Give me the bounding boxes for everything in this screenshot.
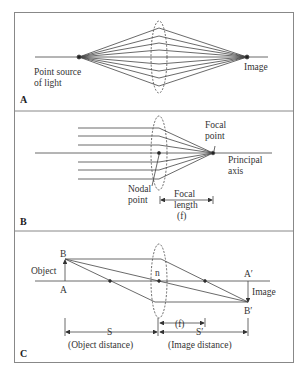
label-object-distance: (Object distance) xyxy=(68,340,133,351)
label-focal: Focal xyxy=(205,120,226,130)
panel-label-a: A xyxy=(20,94,28,105)
focal-point-dot xyxy=(211,151,215,155)
label-of-light: of light xyxy=(34,78,62,88)
panel-c-labels: B A Object n A′ Image B′ (f) S S′ (Objec… xyxy=(20,249,276,359)
label-A: A xyxy=(60,285,67,295)
nodal-pointer xyxy=(152,155,159,186)
panel-label-c: C xyxy=(20,348,27,359)
label-B-prime: B′ xyxy=(244,306,252,316)
label-n: n xyxy=(155,268,160,278)
label-image: Image xyxy=(252,287,276,297)
label-S-prime: S′ xyxy=(196,327,203,337)
label-nodal-point: point xyxy=(128,195,148,205)
label-object: Object xyxy=(31,266,57,276)
label-point-source: Point source xyxy=(34,67,81,77)
label-A-prime: A′ xyxy=(244,269,253,279)
label-focal-length-2: length xyxy=(174,200,198,210)
label-S: S xyxy=(107,327,112,337)
label-axis: axis xyxy=(228,166,244,176)
label-focal-length-1: Focal xyxy=(174,189,195,199)
panel-c xyxy=(35,244,270,336)
label-B: B xyxy=(60,249,66,259)
label-image-distance: (Image distance) xyxy=(168,340,232,351)
label-principal: Principal xyxy=(228,155,263,165)
label-nodal: Nodal xyxy=(128,184,152,194)
image-dot xyxy=(245,55,249,59)
label-image: Image xyxy=(244,62,268,72)
panel-label-b: B xyxy=(20,216,27,227)
panel-a xyxy=(35,21,268,93)
lens-optics-diagram: Point source of light Image A Focal poin… xyxy=(0,0,303,373)
focal-pointer xyxy=(214,146,215,151)
point-source-dot xyxy=(77,55,81,59)
nodal-point-dot xyxy=(157,151,160,154)
label-f: (f) xyxy=(175,319,185,330)
label-point: point xyxy=(205,131,225,141)
label-focal-length-f: (f) xyxy=(177,211,187,222)
